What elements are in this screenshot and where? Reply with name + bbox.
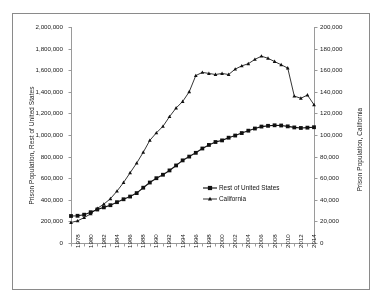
x-axis-tick-label: 2006 (257, 234, 264, 248)
x-axis-tick-label: 2012 (297, 234, 304, 248)
y-axis-tick-label: 1,600,000 (15, 66, 63, 73)
x-axis-tick-label: 2008 (271, 234, 278, 248)
y-axis-tick-label: 1,800,000 (15, 45, 63, 52)
x-axis-tick-label: 2010 (284, 234, 291, 248)
x-axis-tick-label: 1978 (74, 234, 81, 248)
y2-axis-tick-label: 100,000 (320, 131, 368, 138)
chart-plot-canvas (13, 14, 371, 291)
y-axis-tick-label: 1,200,000 (15, 109, 63, 116)
y-axis-tick-label: 2,000,000 (15, 23, 63, 30)
x-axis-tick-label: 1980 (87, 234, 94, 248)
y2-axis-tick-label: 120,000 (320, 109, 368, 116)
x-axis-tick-label: 1988 (139, 234, 146, 248)
y2-axis-tick-label: 80,000 (320, 153, 368, 160)
y-axis-tick-label: 600,000 (15, 174, 63, 181)
chart-figure: Prison Population, Rest of United States… (12, 13, 370, 290)
y2-axis-tick-label: 20,000 (320, 217, 368, 224)
x-axis-tick-label: 1996 (192, 234, 199, 248)
y2-axis-tick-label: 40,000 (320, 196, 368, 203)
x-axis-tick-label: 1994 (179, 234, 186, 248)
y-axis-tick-label: 1,000,000 (15, 131, 63, 138)
y2-axis-tick-label: 60,000 (320, 174, 368, 181)
x-axis-tick-label: 1992 (165, 234, 172, 248)
y-axis-tick-label: 400,000 (15, 196, 63, 203)
x-axis-tick-label: 1986 (126, 234, 133, 248)
legend-item-label: Rest of United States (219, 184, 279, 191)
x-axis-tick-label: 1990 (152, 234, 159, 248)
legend-item-label: California (219, 195, 246, 202)
y-axis-tick-label: 200,000 (15, 217, 63, 224)
y-axis-tick-label: 0 (15, 239, 63, 246)
x-axis-tick-label: 1982 (100, 234, 107, 248)
x-axis-tick-label: 2004 (244, 234, 251, 248)
y2-axis-tick-label: 180,000 (320, 45, 368, 52)
y-axis-tick-label: 800,000 (15, 153, 63, 160)
y2-axis-tick-label: 200,000 (320, 23, 368, 30)
y2-axis-tick-label: 160,000 (320, 66, 368, 73)
x-axis-tick-label: 1984 (113, 234, 120, 248)
y2-axis-tick-label: 0 (320, 239, 368, 246)
y2-axis-tick-label: 140,000 (320, 88, 368, 95)
y-axis-tick-label: 1,400,000 (15, 88, 63, 95)
x-axis-tick-label: 2014 (310, 234, 317, 248)
x-axis-tick-label: 2002 (231, 234, 238, 248)
x-axis-tick-label: 2000 (218, 234, 225, 248)
x-axis-tick-label: 1998 (205, 234, 212, 248)
